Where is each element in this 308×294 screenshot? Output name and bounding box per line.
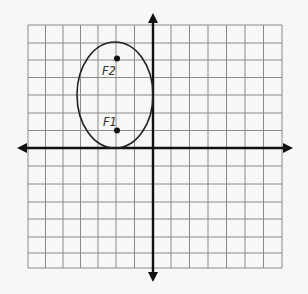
focus-f2-label: F2	[102, 64, 116, 78]
x-axis-left-arrow-icon	[17, 143, 27, 153]
focus-f2-point	[114, 56, 120, 62]
x-axis-right-arrow-icon	[283, 143, 293, 153]
grid-lines	[28, 25, 282, 268]
y-axis-up-arrow-icon	[148, 13, 158, 23]
y-axis-down-arrow-icon	[148, 272, 158, 282]
focus-f1-label: F1	[103, 115, 117, 129]
coordinate-plane: F2 F1	[0, 0, 308, 294]
